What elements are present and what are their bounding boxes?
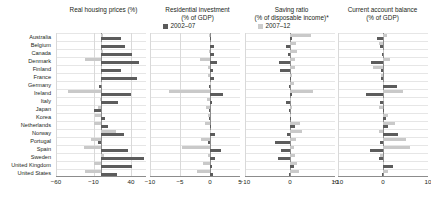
- bar: [290, 146, 294, 149]
- row-gridline: [150, 169, 240, 170]
- x-gridline: [180, 33, 181, 176]
- bar: [290, 50, 297, 53]
- bar: [290, 125, 295, 128]
- country-label: Belgium: [31, 42, 51, 48]
- bar: [366, 93, 383, 96]
- bar: [289, 85, 290, 88]
- x-axis-ticks-3: −10010: [245, 178, 335, 190]
- x-tick-label: 0: [288, 178, 291, 186]
- panel-saving-ratio: −10010: [245, 33, 335, 177]
- bar: [101, 77, 137, 80]
- panel-real-housing-prices: −60−1040: [56, 33, 146, 177]
- x-tick-label: 0: [381, 178, 384, 186]
- x-gridline: [338, 33, 339, 176]
- bar: [101, 82, 102, 85]
- row-gridline: [150, 97, 240, 98]
- bar: [290, 34, 311, 37]
- country-label: United Kingdom: [11, 162, 51, 168]
- legend-label-2007-12: 2007–12: [266, 22, 291, 29]
- bar: [281, 149, 290, 152]
- x-tick-label: −10: [333, 178, 344, 186]
- zero-axis-line: [383, 33, 384, 176]
- panel-title-2: Residential investment (% of GDP): [150, 6, 245, 22]
- bar: [383, 146, 410, 149]
- bar: [383, 165, 393, 168]
- country-label: Spain: [37, 146, 51, 152]
- x-tick-label: 0: [208, 178, 211, 186]
- bar: [377, 37, 383, 40]
- bar: [379, 157, 384, 160]
- bar: [383, 58, 390, 61]
- bar: [290, 77, 291, 80]
- x-gridline: [94, 33, 95, 176]
- bar: [383, 133, 398, 136]
- bar: [290, 58, 295, 61]
- row-gridline: [150, 57, 240, 58]
- row-gridline: [150, 105, 240, 106]
- bar: [94, 122, 101, 125]
- bar: [101, 101, 118, 104]
- bar: [210, 69, 213, 72]
- x-tick-label: −5: [176, 178, 183, 186]
- row-gridline: [150, 161, 240, 162]
- panel-title-2-line-1: Residential investment: [150, 6, 245, 14]
- bar: [210, 45, 214, 48]
- country-label: Canada: [31, 50, 51, 56]
- country-label: France: [34, 74, 51, 80]
- bar: [383, 50, 384, 53]
- x-tick-label: 10: [425, 178, 431, 186]
- bar: [278, 157, 290, 160]
- bar: [381, 77, 383, 80]
- bar: [101, 117, 105, 120]
- bar: [290, 93, 292, 96]
- bar: [101, 45, 125, 48]
- country-label: Norway: [32, 130, 51, 136]
- bar: [290, 82, 294, 85]
- bar: [197, 170, 210, 173]
- plot-area-4: [338, 33, 428, 176]
- bar: [208, 141, 210, 144]
- bar: [101, 133, 124, 136]
- row-gridline: [150, 81, 240, 82]
- bar: [383, 138, 406, 141]
- bar: [99, 85, 101, 88]
- bar: [210, 173, 213, 176]
- bar: [210, 149, 221, 152]
- bar: [101, 157, 144, 160]
- row-gridline: [150, 153, 240, 154]
- row-gridline: [150, 33, 240, 34]
- bar: [209, 85, 210, 88]
- legend-item-2007-12: 2007–12: [258, 22, 290, 30]
- bar: [383, 98, 384, 101]
- bar: [383, 90, 403, 93]
- bar: [98, 141, 101, 144]
- legend-label-2002-07: 2002–07: [171, 22, 196, 29]
- bar: [383, 125, 388, 128]
- country-label: Australia: [29, 34, 51, 40]
- bar: [290, 106, 292, 109]
- bar: [288, 53, 290, 56]
- row-gridline: [150, 129, 240, 130]
- bar: [169, 90, 210, 93]
- bar: [383, 117, 386, 120]
- panel-title-4-line-1: Current account balance: [335, 6, 430, 14]
- bar: [383, 85, 397, 88]
- bar: [101, 53, 132, 56]
- country-label: Portugal: [30, 138, 51, 144]
- bar: [203, 162, 210, 165]
- bar: [209, 117, 210, 120]
- bar: [275, 141, 290, 144]
- bar: [84, 146, 101, 149]
- bar: [85, 170, 101, 173]
- bar: [210, 133, 215, 136]
- bar: [290, 42, 296, 45]
- bar: [290, 37, 292, 40]
- x-axis-ticks-2: −10−505: [150, 178, 240, 190]
- row-gridline: [150, 113, 240, 114]
- country-label: Finland: [33, 66, 51, 72]
- x-axis-ticks-1: −60−1040: [56, 178, 146, 190]
- bar: [383, 109, 384, 112]
- panel-title-4: Current account balance (% of GDP): [335, 6, 430, 22]
- panel-residential-investment: −10−505: [150, 33, 240, 177]
